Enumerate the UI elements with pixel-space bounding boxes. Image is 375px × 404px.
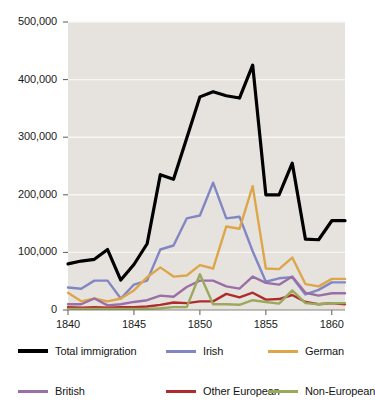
- line-swatch-blue: [166, 350, 196, 353]
- line-swatch-purple: [18, 390, 48, 393]
- legend-row: Total immigrationIrishGerman: [18, 345, 358, 365]
- line-swatch-red: [166, 390, 196, 393]
- legend-row: BritishOther EuropeanNon-European: [18, 365, 358, 385]
- y-axis-ticks: [63, 22, 68, 310]
- line-swatch-orange: [268, 350, 298, 353]
- legend-item-irish[interactable]: Irish: [166, 345, 223, 357]
- chart-legend: Total immigrationIrishGermanBritishOther…: [18, 345, 358, 385]
- legend-label: Non-European: [305, 385, 375, 397]
- legend-label: Irish: [203, 345, 223, 357]
- y-axis-tick-label: 300,000: [0, 130, 57, 142]
- x-axis-ticks: [68, 310, 332, 315]
- legend-item-british[interactable]: British: [18, 385, 85, 397]
- y-axis-tick-label: 400,000: [0, 73, 57, 85]
- legend-item-non-european[interactable]: Non-European: [268, 385, 375, 397]
- legend-label: Total immigration: [55, 345, 136, 357]
- x-axis-tick-label: 1855: [244, 318, 288, 330]
- x-axis-tick-label: 1860: [310, 318, 354, 330]
- y-axis-tick-label: 200,000: [0, 188, 57, 200]
- y-axis-tick-label: 0: [0, 303, 57, 315]
- legend-label: British: [55, 385, 85, 397]
- x-axis-tick-label: 1850: [178, 318, 222, 330]
- legend-item-total-immigration[interactable]: Total immigration: [18, 345, 136, 357]
- legend-label: German: [305, 345, 344, 357]
- legend-item-german[interactable]: German: [268, 345, 344, 357]
- legend-item-other-european[interactable]: Other European: [166, 385, 280, 397]
- line-swatch-green: [268, 390, 298, 393]
- x-axis-tick-label: 1840: [46, 318, 90, 330]
- line-swatch-black: [18, 349, 48, 353]
- x-axis-tick-label: 1845: [112, 318, 156, 330]
- y-axis-tick-label: 500,000: [0, 15, 57, 27]
- y-axis-tick-label: 100,000: [0, 245, 57, 257]
